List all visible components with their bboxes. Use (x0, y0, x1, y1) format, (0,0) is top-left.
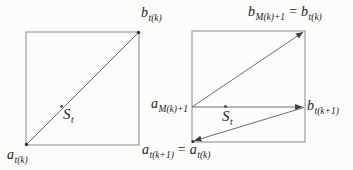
math-base: b (141, 5, 148, 20)
label-right-s: St (222, 109, 233, 124)
math-base: a (7, 147, 14, 162)
math-base: S (63, 106, 71, 122)
math-subscript: t (71, 115, 74, 125)
right-diagonal-up-arrow (192, 33, 303, 108)
math-subscript: t(k+1) (315, 106, 339, 116)
label-right-a-mk1: aM(k)+1 (151, 97, 188, 111)
left-point-b-dot (137, 31, 140, 34)
math-base: a (151, 96, 158, 111)
label-left-a-tk: at(k) (7, 148, 28, 162)
right-square (192, 31, 305, 142)
label-left-s: St (63, 107, 74, 122)
math-base: a (142, 142, 149, 157)
math-subscript: t(k+1) (150, 150, 174, 160)
math-subscript: t(k) (309, 12, 322, 22)
label-right-b-eq: bM(k)+1= bt(k) (248, 5, 322, 19)
label-right-b-tk1: bt(k+1) (307, 99, 339, 113)
math-subscript: t(k) (149, 13, 162, 23)
math-subscript: M(k)+1 (159, 104, 189, 114)
math-base: S (222, 108, 230, 124)
figure-container: bt(k) at(k) St bM(k)+1= bt(k) aM(k)+1 bt… (0, 0, 353, 170)
right-diagonal-down-arrow (195, 108, 304, 141)
left-point-a-dot (25, 143, 28, 146)
label-left-b-tk: bt(k) (141, 6, 162, 20)
math-subscript: t(k) (15, 155, 28, 165)
left-diagonal (26, 32, 139, 145)
math-base: = b (288, 4, 308, 19)
math-subscript: t(k) (197, 150, 210, 160)
label-right-a-eq: at(k+1)= at(k) (142, 143, 210, 157)
math-base: b (248, 4, 255, 19)
math-base: = a (177, 142, 197, 157)
math-subscript: t (230, 117, 233, 127)
math-base: b (307, 98, 314, 113)
math-subscript: M(k)+1 (256, 12, 286, 22)
